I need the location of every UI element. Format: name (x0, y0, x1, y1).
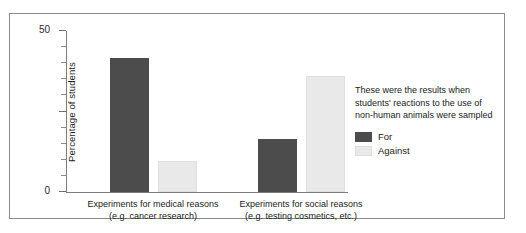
legend-note: These were the results when students' re… (355, 84, 505, 122)
legend-block: These were the results when students' re… (355, 84, 505, 159)
legend-swatch (355, 132, 372, 142)
y-tick-minor (61, 175, 66, 176)
legend-swatch (355, 146, 372, 156)
y-tick-minor (61, 159, 66, 160)
y-tick-minor (61, 78, 66, 79)
plot-area: Percentage of students 050100 Experiment… (66, 31, 348, 193)
x-axis-group-label: Experiments for social reasons(e.g. test… (201, 199, 401, 222)
y-tick-minor (61, 94, 66, 95)
y-tick-major: 50 (59, 111, 66, 112)
bar (306, 76, 345, 192)
bar (158, 161, 197, 192)
y-axis-title: Percentage of students (66, 62, 77, 162)
y-tick-major: 100 (59, 30, 66, 31)
legend-entry: For (355, 131, 505, 144)
chart-figure: Percentage of students 050100 Experiment… (9, 13, 505, 219)
legend-note-line-2: students' reactions to the use of (355, 98, 482, 108)
bar (110, 58, 149, 192)
y-tick-minor (61, 46, 66, 47)
y-tick-minor (61, 143, 66, 144)
y-tick-label: 0 (44, 186, 50, 196)
legend-note-line-1: These were the results when (355, 85, 470, 95)
y-tick-minor (61, 62, 66, 63)
y-tick-label: 50 (39, 25, 50, 35)
x-label-line-1: Experiments for social reasons (239, 199, 362, 209)
legend-entry: Against (355, 145, 505, 158)
legend-label: Against (378, 146, 410, 156)
x-label-line-1: Experiments for medical reasons (87, 199, 218, 209)
legend-note-line-3: non-human animals were sampled (355, 110, 493, 120)
x-label-line-2: (e.g. testing cosmetics, etc.) (201, 211, 401, 223)
legend-label: For (378, 132, 392, 142)
y-tick-major: 0 (59, 191, 66, 192)
x-axis-line (66, 192, 348, 193)
legend-keys: ForAgainst (355, 131, 505, 158)
y-tick-minor (61, 127, 66, 128)
bar (258, 139, 297, 192)
